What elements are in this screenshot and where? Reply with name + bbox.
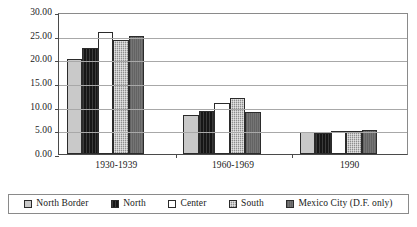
legend-label: North bbox=[123, 199, 146, 209]
gridline bbox=[59, 109, 407, 110]
legend-label: South bbox=[241, 199, 264, 209]
y-axis-tick bbox=[55, 38, 59, 39]
y-axis-tick-label: 30.00 bbox=[30, 8, 52, 18]
y-axis-tick-label: 20.00 bbox=[30, 56, 52, 66]
y-axis-tick bbox=[55, 61, 59, 62]
legend-swatch-icon bbox=[24, 200, 32, 208]
bar bbox=[113, 40, 129, 154]
x-axis-category-label: 1990 bbox=[340, 160, 359, 170]
bar bbox=[129, 36, 145, 154]
bar bbox=[300, 132, 316, 154]
y-axis-tick-label: 15.00 bbox=[30, 79, 52, 89]
bar-chart: 30.0025.0020.0015.0010.005.000.00 1930-1… bbox=[0, 0, 417, 227]
plot-area bbox=[58, 13, 408, 155]
y-axis-tick bbox=[55, 132, 59, 133]
legend-label: Mexico City (D.F. only) bbox=[298, 199, 392, 209]
gridline bbox=[59, 38, 407, 39]
bar bbox=[183, 115, 199, 154]
legend-item[interactable]: North Border bbox=[24, 199, 88, 209]
y-axis-tick bbox=[55, 156, 59, 157]
chart-legend: North BorderNorthCenterSouthMexico City … bbox=[8, 194, 409, 214]
legend-label: Center bbox=[180, 199, 206, 209]
x-axis-category-label: 1930-1939 bbox=[95, 160, 137, 170]
y-axis-tick bbox=[55, 109, 59, 110]
bar bbox=[315, 133, 331, 154]
legend-item[interactable]: Center bbox=[168, 199, 206, 209]
gridline bbox=[59, 85, 407, 86]
y-axis: 30.0025.0020.0015.0010.005.000.00 bbox=[0, 0, 56, 190]
legend-label: North Border bbox=[36, 199, 88, 209]
plot-area-wrapper: 30.0025.0020.0015.0010.005.000.00 1930-1… bbox=[0, 0, 417, 190]
x-axis: 1930-19391960-19691990 bbox=[58, 160, 408, 178]
bar bbox=[230, 98, 246, 154]
gridline bbox=[59, 61, 407, 62]
legend-swatch-icon bbox=[111, 200, 119, 208]
x-axis-tick bbox=[176, 154, 177, 158]
legend-item[interactable]: South bbox=[229, 199, 264, 209]
x-axis-category-label: 1960-1969 bbox=[212, 160, 254, 170]
y-axis-tick bbox=[55, 14, 59, 15]
y-axis-tick-label: 10.00 bbox=[30, 103, 52, 113]
y-axis-tick-label: 5.00 bbox=[35, 127, 52, 137]
bar bbox=[98, 32, 114, 154]
y-axis-tick-label: 0.00 bbox=[35, 150, 52, 160]
bar bbox=[67, 59, 83, 154]
gridline bbox=[59, 132, 407, 133]
legend-swatch-icon bbox=[168, 200, 176, 208]
legend-swatch-icon bbox=[229, 200, 237, 208]
x-axis-tick bbox=[292, 154, 293, 158]
bar bbox=[82, 48, 98, 154]
bar bbox=[362, 130, 378, 154]
bar bbox=[346, 131, 362, 154]
bar bbox=[331, 131, 347, 154]
bar bbox=[214, 103, 230, 154]
legend-item[interactable]: North bbox=[111, 199, 146, 209]
legend-swatch-icon bbox=[286, 200, 294, 208]
y-axis-tick-label: 25.00 bbox=[30, 32, 52, 42]
y-axis-tick bbox=[55, 85, 59, 86]
legend-item[interactable]: Mexico City (D.F. only) bbox=[286, 199, 392, 209]
